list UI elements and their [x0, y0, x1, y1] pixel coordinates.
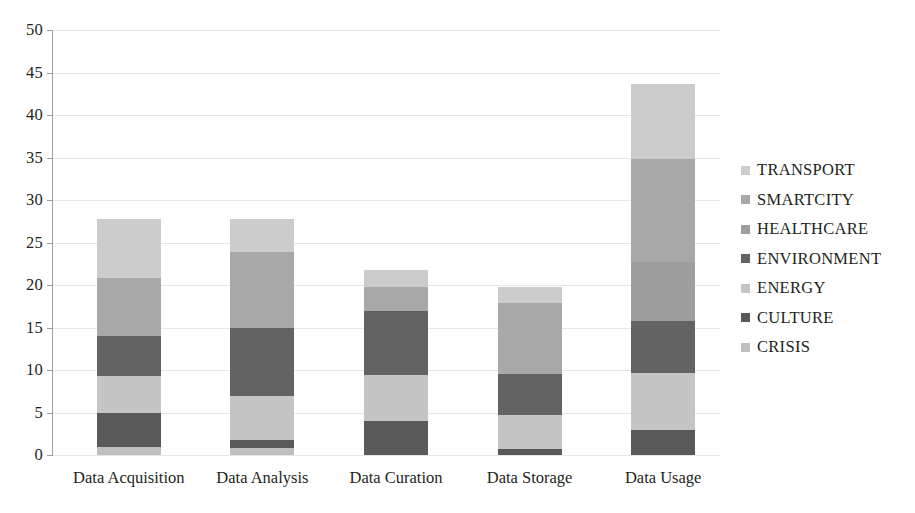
- legend-label: SMARTCITY: [757, 190, 854, 210]
- bar-segment-energy[interactable]: [364, 375, 428, 421]
- bar-segment-culture[interactable]: [230, 440, 294, 449]
- bar-segment-transport[interactable]: [631, 84, 695, 160]
- legend-item-environment[interactable]: ENVIRONMENT: [741, 249, 881, 269]
- legend-label: ENVIRONMENT: [757, 249, 881, 269]
- legend-item-healthcare[interactable]: HEALTHCARE: [741, 219, 881, 239]
- bar-segment-transport[interactable]: [364, 270, 428, 287]
- bar-segment-energy[interactable]: [498, 415, 562, 449]
- bar-segment-energy[interactable]: [230, 396, 294, 440]
- legend-swatch-icon: [741, 284, 750, 293]
- bar-segment-transport[interactable]: [230, 219, 294, 252]
- grid-line: [52, 455, 720, 456]
- y-axis-tick: [47, 455, 53, 456]
- x-axis-category-label: Data Analysis: [216, 468, 308, 488]
- bar-segment-smartcity[interactable]: [631, 159, 695, 262]
- legend-label: CULTURE: [757, 308, 834, 328]
- legend-swatch-icon: [741, 343, 750, 352]
- y-axis-tick-label: 35: [26, 148, 43, 168]
- bar-segment-culture[interactable]: [364, 421, 428, 455]
- legend-item-transport[interactable]: TRANSPORT: [741, 160, 881, 180]
- y-axis-tick-label: 10: [26, 360, 43, 380]
- bar-segment-environment[interactable]: [97, 336, 161, 376]
- y-axis-tick-label: 50: [26, 20, 43, 40]
- legend-swatch-icon: [741, 195, 750, 204]
- y-axis-tick-label: 0: [35, 445, 43, 465]
- bar-segment-smartcity[interactable]: [364, 287, 428, 311]
- bar-group[interactable]: Data Curation: [364, 270, 428, 455]
- x-axis-category-label: Data Curation: [349, 468, 442, 488]
- bar-segment-crisis[interactable]: [97, 447, 161, 456]
- bar-segment-energy[interactable]: [631, 373, 695, 431]
- bar-segment-crisis[interactable]: [230, 448, 294, 455]
- bar-segment-healthcare[interactable]: [631, 262, 695, 321]
- legend-swatch-icon: [741, 254, 750, 263]
- bar-group[interactable]: Data Acquisition: [97, 219, 161, 455]
- legend-item-crisis[interactable]: CRISIS: [741, 337, 881, 357]
- x-axis-category-label: Data Usage: [625, 468, 702, 488]
- y-axis-tick-label: 30: [26, 190, 43, 210]
- legend-label: CRISIS: [757, 337, 810, 357]
- bar-segment-culture[interactable]: [631, 430, 695, 455]
- y-axis-tick-label: 25: [26, 233, 43, 253]
- legend-swatch-icon: [741, 313, 750, 322]
- bar-segment-smartcity[interactable]: [498, 303, 562, 374]
- bar-segment-transport[interactable]: [498, 287, 562, 303]
- bar-group[interactable]: Data Storage: [498, 287, 562, 455]
- legend-item-energy[interactable]: ENERGY: [741, 278, 881, 298]
- bar-segment-environment[interactable]: [631, 321, 695, 373]
- bar-segment-transport[interactable]: [97, 219, 161, 279]
- chart-legend: TRANSPORTSMARTCITYHEALTHCAREENVIRONMENTE…: [741, 160, 881, 357]
- bar-segment-culture[interactable]: [97, 413, 161, 447]
- bar-segment-culture[interactable]: [498, 449, 562, 455]
- plot-area: 05101520253035404550 Data AcquisitionDat…: [52, 30, 720, 455]
- x-axis-category-label: Data Storage: [487, 468, 573, 488]
- bar-segment-smartcity[interactable]: [230, 252, 294, 329]
- bar-group[interactable]: Data Usage: [631, 84, 695, 455]
- x-axis-category-label: Data Acquisition: [73, 468, 184, 488]
- legend-label: ENERGY: [757, 278, 826, 298]
- legend-item-smartcity[interactable]: SMARTCITY: [741, 190, 881, 210]
- bar-segment-environment[interactable]: [230, 328, 294, 395]
- bar-group[interactable]: Data Analysis: [230, 219, 294, 455]
- y-axis-tick-label: 15: [26, 318, 43, 338]
- y-axis-tick-label: 5: [35, 403, 43, 423]
- bar-segment-energy[interactable]: [97, 376, 161, 413]
- legend-label: TRANSPORT: [757, 160, 855, 180]
- bar-segment-environment[interactable]: [498, 374, 562, 415]
- stacked-bar-chart: 05101520253035404550 Data AcquisitionDat…: [0, 0, 915, 513]
- y-axis-tick-label: 40: [26, 105, 43, 125]
- bar-segment-environment[interactable]: [364, 311, 428, 376]
- legend-swatch-icon: [741, 225, 750, 234]
- legend-label: HEALTHCARE: [757, 219, 868, 239]
- y-axis-tick-label: 20: [26, 275, 43, 295]
- bars-layer: Data AcquisitionData AnalysisData Curati…: [52, 30, 720, 455]
- bar-segment-smartcity[interactable]: [97, 278, 161, 336]
- legend-item-culture[interactable]: CULTURE: [741, 308, 881, 328]
- y-axis-tick-label: 45: [26, 63, 43, 83]
- legend-swatch-icon: [741, 166, 750, 175]
